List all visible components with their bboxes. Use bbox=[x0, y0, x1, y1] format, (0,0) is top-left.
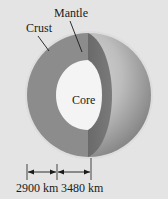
dimension-label-mantle-thickness: 2900 km bbox=[16, 182, 58, 194]
crust-label: Crust bbox=[26, 22, 52, 34]
earth-diagram: Mantle Crust Core 2900 km 3480 km bbox=[0, 0, 168, 199]
crust-leader-line bbox=[38, 36, 49, 51]
dim-arrow-2900 bbox=[28, 170, 56, 175]
dimension-label-core-radius: 3480 km bbox=[61, 182, 103, 194]
core-label: Core bbox=[72, 94, 95, 106]
mantle-label: Mantle bbox=[54, 7, 88, 19]
dim-arrow-3480 bbox=[58, 170, 90, 175]
